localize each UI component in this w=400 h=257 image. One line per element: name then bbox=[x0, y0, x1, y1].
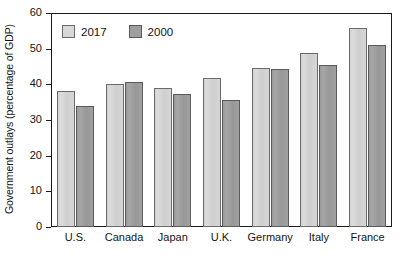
bar-2017-france bbox=[349, 28, 367, 227]
legend-label-2000: 2000 bbox=[148, 26, 174, 38]
bar-group bbox=[106, 13, 143, 227]
bar-2000-us bbox=[76, 106, 94, 227]
bar-2017-germany bbox=[252, 68, 270, 227]
legend-item-2017: 2017 bbox=[62, 25, 107, 38]
bar-2017-us bbox=[57, 91, 75, 227]
y-axis-title-container: Government outlays (percentage of GDP) bbox=[0, 0, 18, 237]
bar-chart-figure: Government outlays (percentage of GDP) 0… bbox=[0, 0, 400, 257]
bar-2017-canada bbox=[106, 84, 124, 227]
y-tick-label: 30 bbox=[20, 114, 42, 125]
x-tick-label: U.K. bbox=[197, 231, 246, 243]
x-tick-label: Italy bbox=[295, 231, 344, 243]
bar-2000-france bbox=[368, 45, 386, 227]
y-tick-label: 50 bbox=[20, 43, 42, 54]
y-tick-label: 0 bbox=[20, 221, 42, 232]
y-tick-mark bbox=[46, 227, 51, 228]
legend-item-2000: 2000 bbox=[129, 25, 174, 38]
y-tick-label: 60 bbox=[20, 7, 42, 18]
bars-layer bbox=[51, 13, 392, 227]
bar-group bbox=[154, 13, 191, 227]
legend-swatch-2017 bbox=[62, 25, 75, 38]
bar-2000-uk bbox=[222, 100, 240, 227]
legend-label-2017: 2017 bbox=[81, 26, 107, 38]
chart-legend: 2017 2000 bbox=[62, 25, 173, 38]
bar-group bbox=[203, 13, 240, 227]
x-tick-label: France bbox=[343, 231, 392, 243]
x-tick-label: Japan bbox=[148, 231, 197, 243]
x-tick-label: Germany bbox=[246, 231, 295, 243]
y-axis-title: Government outlays (percentage of GDP) bbox=[3, 24, 15, 214]
bar-group bbox=[252, 13, 289, 227]
y-tick-label: 10 bbox=[20, 185, 42, 196]
bar-2017-italy bbox=[300, 53, 318, 227]
bar-2017-uk bbox=[203, 78, 221, 227]
x-tick-label: Canada bbox=[100, 231, 149, 243]
bar-group bbox=[300, 13, 337, 227]
bar-2000-italy bbox=[319, 65, 337, 227]
bar-group bbox=[57, 13, 94, 227]
bar-group bbox=[349, 13, 386, 227]
legend-swatch-2000 bbox=[129, 25, 142, 38]
y-tick-label: 40 bbox=[20, 78, 42, 89]
bar-2000-japan bbox=[173, 94, 191, 227]
bar-2000-germany bbox=[271, 69, 289, 227]
bar-2017-japan bbox=[154, 88, 172, 227]
bar-2000-canada bbox=[125, 82, 143, 227]
x-tick-label: U.S. bbox=[51, 231, 100, 243]
y-tick-label: 20 bbox=[20, 150, 42, 161]
